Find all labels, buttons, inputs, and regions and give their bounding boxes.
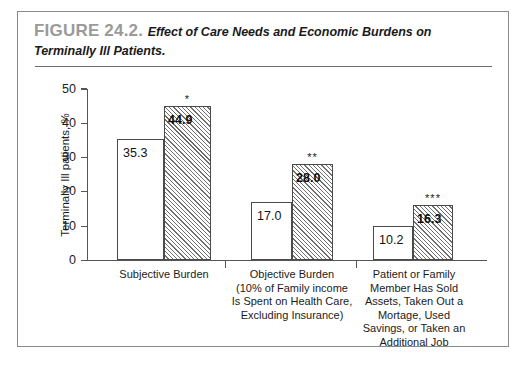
y-axis-title: Terminally Ill patients, % <box>59 85 71 265</box>
bar-value-label: 10.2 <box>379 233 403 247</box>
y-tick <box>81 157 87 158</box>
y-tick-label: 30 <box>46 151 76 163</box>
y-tick <box>81 260 87 261</box>
y-tick-label: 0 <box>46 254 76 266</box>
bar-hatched <box>164 106 211 260</box>
y-tick <box>81 226 87 227</box>
x-group-tick <box>356 261 357 268</box>
y-axis-line <box>87 89 88 261</box>
x-axis-label-line: Assets, Taken Out a <box>338 295 490 309</box>
x-group-tick <box>225 261 226 268</box>
y-tick-label: 50 <box>46 83 76 95</box>
x-axis-group-label: Patient or FamilyMember Has SoldAssets, … <box>338 268 490 349</box>
y-tick <box>81 123 87 124</box>
significance-mark: ** <box>292 152 333 162</box>
significance-mark: * <box>164 94 211 104</box>
y-tick-label: 10 <box>46 220 76 232</box>
figure-frame: FIGURE 24.2. Effect of Care Needs and Ec… <box>17 11 509 347</box>
bar-value-label: 28.0 <box>296 171 320 185</box>
x-axis-label-line: Member Has Sold <box>338 282 490 296</box>
y-tick <box>81 191 87 192</box>
x-axis-label-line: Mortage, Used <box>338 309 490 323</box>
bar-value-label: 17.0 <box>257 209 281 223</box>
significance-mark: *** <box>413 193 453 203</box>
x-axis-label-line: Additional Job <box>338 336 490 350</box>
y-tick-label: 40 <box>46 117 76 129</box>
bar-value-label: 35.3 <box>123 146 147 160</box>
x-axis-label-line: Savings, or Taken an <box>338 322 490 336</box>
bar-chart: Terminally Ill patients, % 01020304050 3… <box>18 12 510 348</box>
y-tick-label: 20 <box>46 185 76 197</box>
bar-value-label: 44.9 <box>168 113 192 127</box>
x-axis-label-line: Patient or Family <box>338 268 490 282</box>
y-tick <box>81 88 87 89</box>
bar-value-label: 16.3 <box>417 212 441 226</box>
